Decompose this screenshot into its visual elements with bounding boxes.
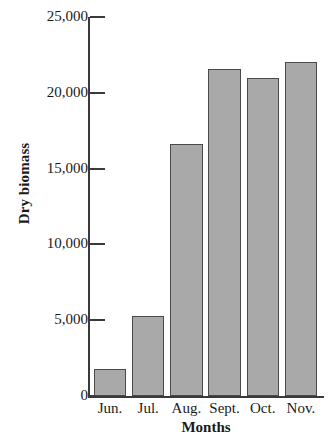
bar	[94, 369, 126, 396]
x-axis-tick-label: Sept.	[206, 400, 244, 417]
x-axis-tick-label: Jun.	[91, 400, 129, 417]
bar-chart: Dry biomass 05,00010,00015,00020,00025,0…	[0, 0, 336, 441]
bar	[285, 62, 317, 396]
x-axis-title: Months	[88, 419, 324, 436]
x-axis-tick-label: Oct.	[244, 400, 282, 417]
bar	[208, 69, 240, 396]
bar	[170, 144, 202, 396]
bar	[247, 78, 279, 396]
bar	[132, 316, 164, 396]
bars-group	[0, 0, 336, 441]
x-axis-tick-label: Jul.	[129, 400, 167, 417]
x-axis-tick-label: Aug.	[167, 400, 205, 417]
x-axis-tick-label: Nov.	[282, 400, 320, 417]
